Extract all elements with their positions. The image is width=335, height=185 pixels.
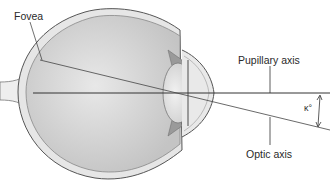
kappa-angle-label: κ° [304,103,312,113]
eye-diagram: Fovea Pupillary axis Optic axis κ° [0,0,335,185]
fovea-label: Fovea [14,10,43,22]
optic-axis-label: Optic axis [246,148,292,160]
pupillary-axis-label: Pupillary axis [238,54,300,66]
